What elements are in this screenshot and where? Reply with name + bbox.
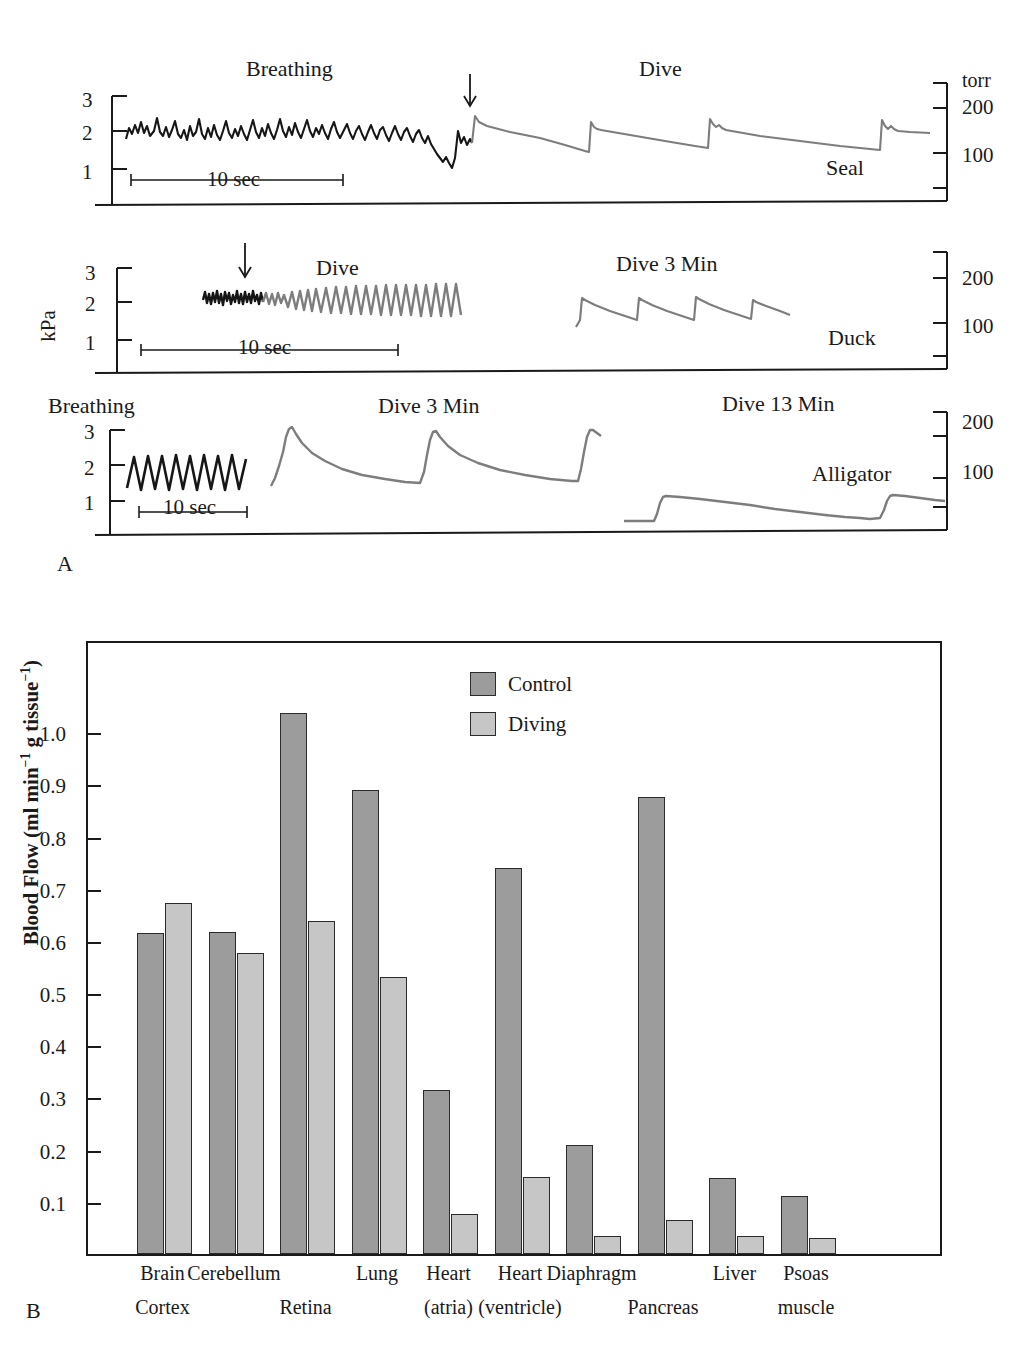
y-axis-tick-mark — [88, 994, 101, 996]
bar-liver-diving — [737, 1236, 764, 1254]
y-axis-tick-label: 1.0 — [6, 722, 66, 747]
bar-retina-diving — [308, 921, 335, 1254]
bar-cerebellum-control — [209, 932, 236, 1254]
panel-a-letter: A — [57, 551, 73, 577]
y-axis-tick-label: 0.8 — [6, 827, 66, 852]
y-axis-tick-label: 0.3 — [6, 1087, 66, 1112]
figure-root: Breathing Dive 3 2 1 torr 200 100 10 sec… — [0, 0, 1028, 1345]
y-axis-tick-label: 0.9 — [6, 774, 66, 799]
y-axis-tick-mark — [88, 1151, 101, 1153]
y-axis-tick-label: 0.2 — [6, 1140, 66, 1165]
bar-heart-atria-control — [423, 1090, 450, 1254]
bar-heart-atria-diving — [451, 1214, 478, 1254]
y-axis-tick-mark — [88, 942, 101, 944]
bar-lung-diving — [380, 977, 407, 1254]
bar-diaphragm-control — [566, 1145, 593, 1254]
y-axis-tick-mark — [88, 838, 101, 840]
legend-swatch-diving — [470, 712, 496, 736]
ylabel-sup2: −1 — [18, 667, 33, 682]
panel-a-pressure-traces: Breathing Dive 3 2 1 torr 200 100 10 sec… — [0, 0, 1028, 600]
y-axis-tick-label: 0.1 — [6, 1192, 66, 1217]
y-axis-tick-label: 0.7 — [6, 879, 66, 904]
ylabel-sup1: −1 — [18, 753, 33, 768]
y-axis-tick-mark — [88, 1098, 101, 1100]
y-axis-tick-label: 0.5 — [6, 983, 66, 1008]
panel-b-letter: B — [26, 1298, 41, 1324]
ylabel-end: ) — [19, 660, 43, 667]
y-axis-tick-mark — [88, 733, 101, 735]
y-axis-tick-label: 0.6 — [6, 931, 66, 956]
bar-brain-cortex-control — [137, 933, 164, 1254]
bar-liver-control — [709, 1178, 736, 1254]
bar-heart-ventricle-diving — [523, 1177, 550, 1254]
legend-label-control: Control — [508, 672, 572, 697]
alligator-trace-svg — [0, 0, 1028, 600]
x-axis-category-label: Psoas — [706, 1262, 906, 1285]
bar-retina-control — [280, 713, 307, 1254]
legend-label-diving: Diving — [508, 712, 566, 737]
legend-swatch-control — [470, 672, 496, 696]
x-axis-category-label: muscle — [706, 1296, 906, 1319]
bar-heart-ventricle-control — [495, 868, 522, 1254]
bar-psoas-muscle-control — [781, 1196, 808, 1254]
y-axis-tick-mark — [88, 785, 101, 787]
bar-cerebellum-diving — [237, 953, 264, 1254]
y-axis-tick-mark — [88, 890, 101, 892]
bar-pancreas-diving — [666, 1220, 693, 1254]
bar-lung-control — [352, 790, 379, 1254]
y-axis-tick-mark — [88, 1046, 101, 1048]
bar-pancreas-control — [638, 797, 665, 1254]
bar-brain-cortex-diving — [165, 903, 192, 1254]
bar-diaphragm-diving — [594, 1236, 621, 1254]
y-axis-tick-mark — [88, 1203, 101, 1205]
bar-psoas-muscle-diving — [809, 1238, 836, 1254]
y-axis-tick-label: 0.4 — [6, 1035, 66, 1060]
